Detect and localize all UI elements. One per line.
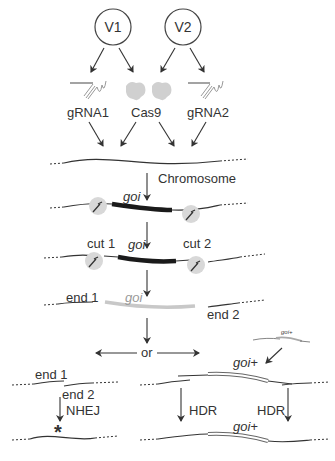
- goi-cut-label: goi: [128, 238, 145, 251]
- end2-label: end 2: [207, 308, 240, 321]
- end1-label: end 1: [66, 291, 99, 304]
- goi-plus-result-label: goi+: [233, 420, 258, 433]
- chromosome-label: Chromosome: [158, 172, 236, 185]
- cut-chromosome: [44, 254, 265, 262]
- vector-v1-label: V1: [94, 8, 132, 46]
- donor-template-icon: [253, 337, 310, 342]
- vector-v2-label: V2: [164, 8, 202, 46]
- nhej-label: NHEJ: [66, 404, 100, 417]
- goi-excised-label: goi: [125, 291, 142, 304]
- hdr-result-chromosome: [140, 434, 330, 442]
- goi-plus-label: goi+: [233, 356, 258, 369]
- donor-arrow: [266, 348, 282, 363]
- goi-label: goi: [123, 190, 140, 203]
- grna2-icon: [188, 81, 223, 99]
- vector-arrows: [91, 48, 204, 72]
- hdr-right-label: HDR: [257, 404, 285, 417]
- nhej-end1-label: end 1: [35, 368, 68, 381]
- grna1-label: gRNA1: [67, 106, 109, 119]
- cut1-label: cut 1: [87, 237, 115, 250]
- hdr-alignment: [140, 374, 330, 385]
- cas9-label: Cas9: [131, 106, 161, 119]
- cas9-icon: [152, 82, 172, 100]
- diagram-canvas: [0, 0, 335, 461]
- grna2-label: gRNA2: [187, 106, 229, 119]
- hdr-left-label: HDR: [189, 404, 217, 417]
- or-label: or: [141, 346, 153, 359]
- mutation-asterisk: *: [54, 422, 62, 442]
- bound-chromosome: [50, 203, 248, 210]
- cut2-label: cut 2: [183, 237, 211, 250]
- nhej-result-chromosome: [12, 436, 118, 440]
- grna1-icon: [70, 81, 106, 99]
- chromosome-line: [50, 159, 248, 164]
- nhej-end2-label: end 2: [62, 388, 95, 401]
- donor-goi-plus-label: goi+: [281, 329, 293, 335]
- converging-arrows: [89, 122, 206, 146]
- cas9-icon: [126, 82, 146, 100]
